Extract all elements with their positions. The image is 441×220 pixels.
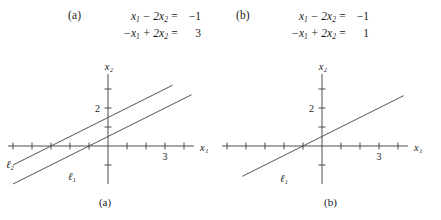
equals-sign: = [336, 8, 349, 25]
equation-systems: (a) x1 − 2x2 = −1 −x1 + 2x2 = 3 (b) x1 −… [0, 0, 441, 52]
plot-b-canvas: 32x₁x₂ℓ₁ [220, 52, 441, 220]
data-line [13, 95, 192, 184]
y-tick-label: 2 [95, 103, 100, 114]
plot-b-svg: 32x₁x₂ℓ₁ [220, 52, 441, 202]
y-axis-label: x₂ [318, 61, 328, 72]
equals-sign: = [168, 8, 181, 25]
data-line [13, 85, 173, 165]
system-b-tag: (b) [236, 9, 250, 21]
equals-sign: = [168, 25, 181, 42]
equation-lhs: x1 − 2x2 [274, 8, 336, 26]
caption-b: (b) [220, 196, 441, 208]
equation-lhs: x1 − 2x2 [106, 8, 168, 26]
plot-a-svg: 32x₁x₂ℓ₁ℓ₂ [0, 52, 220, 202]
caption-a: (a) [0, 196, 215, 208]
y-tick-label: 2 [309, 103, 314, 114]
equation-rhs: −1 [349, 8, 369, 25]
system-a-rows: x1 − 2x2 = −1 −x1 + 2x2 = 3 [106, 8, 201, 42]
system-a-tag: (a) [68, 9, 81, 21]
equation-row: −x1 + 2x2 = 1 [274, 25, 369, 42]
plot-b: 32x₁x₂ℓ₁ (b) [220, 52, 441, 220]
x-tick-label: 3 [163, 151, 168, 162]
plot-a-canvas: 32x₁x₂ℓ₁ℓ₂ [0, 52, 220, 220]
equation-rhs: 3 [181, 25, 201, 42]
equation-row: x1 − 2x2 = −1 [274, 8, 369, 25]
equation-row: −x1 + 2x2 = 3 [106, 25, 201, 42]
equation-lhs: −x1 + 2x2 [274, 25, 336, 43]
line-label: ℓ₁ [280, 173, 288, 184]
system-b-rows: x1 − 2x2 = −1 −x1 + 2x2 = 1 [274, 8, 369, 42]
plot-a: 32x₁x₂ℓ₁ℓ₂ (a) [0, 52, 220, 220]
equals-sign: = [336, 25, 349, 42]
equation-rhs: −1 [181, 8, 201, 25]
figure-root: (a) x1 − 2x2 = −1 −x1 + 2x2 = 3 (b) x1 −… [0, 0, 441, 220]
x-tick-label: 3 [377, 151, 382, 162]
line-label: ℓ₂ [6, 159, 14, 170]
equation-lhs: −x1 + 2x2 [106, 25, 168, 43]
equation-rhs: 1 [349, 25, 369, 42]
x-axis-label: x₁ [199, 142, 208, 153]
y-axis-label: x₂ [104, 61, 114, 72]
line-label: ℓ₁ [68, 171, 76, 182]
x-axis-label: x₁ [413, 142, 422, 153]
equation-row: x1 − 2x2 = −1 [106, 8, 201, 25]
